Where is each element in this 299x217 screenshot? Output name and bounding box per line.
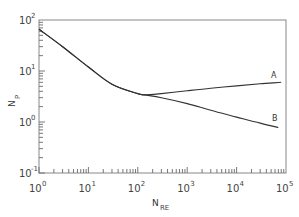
svg-text:5: 5 bbox=[289, 180, 293, 188]
x-axis-tick-labels: 100101102103104105 bbox=[29, 180, 293, 194]
x-axis-title: N RE bbox=[152, 198, 169, 212]
svg-text:P: P bbox=[14, 95, 22, 99]
curves bbox=[39, 29, 281, 127]
x-tick-label: 105 bbox=[276, 180, 293, 194]
svg-text:1: 1 bbox=[91, 180, 95, 188]
curve-label-b: B bbox=[272, 114, 278, 123]
svg-text:N: N bbox=[7, 100, 17, 107]
svg-text:10: 10 bbox=[29, 183, 42, 194]
y-tick-label: 101 bbox=[19, 63, 35, 77]
curve-a bbox=[39, 29, 281, 95]
x-tick-label: 103 bbox=[177, 180, 194, 194]
x-tick-label: 101 bbox=[78, 180, 95, 194]
svg-text:2: 2 bbox=[31, 12, 35, 20]
svg-text:0: 0 bbox=[42, 180, 46, 188]
curve-label-a: A bbox=[271, 71, 277, 80]
y-axis-ticks bbox=[39, 22, 45, 173]
chart: 10-1100101102 100101102103104105 A B N R… bbox=[0, 0, 299, 217]
y-tick-label: 100 bbox=[19, 114, 35, 128]
svg-text:10: 10 bbox=[19, 117, 32, 128]
x-tick-label: 104 bbox=[227, 180, 245, 194]
curve-b bbox=[39, 29, 278, 127]
svg-text:10: 10 bbox=[128, 183, 141, 194]
plot-frame bbox=[39, 20, 286, 173]
svg-text:-1: -1 bbox=[31, 165, 38, 173]
svg-text:10: 10 bbox=[227, 183, 240, 194]
x-tick-label: 100 bbox=[29, 180, 46, 194]
svg-text:N: N bbox=[152, 198, 159, 208]
svg-text:2: 2 bbox=[141, 180, 145, 188]
svg-text:10: 10 bbox=[78, 183, 91, 194]
y-tick-label: 10-1 bbox=[19, 165, 38, 179]
svg-text:10: 10 bbox=[177, 183, 190, 194]
svg-text:1: 1 bbox=[31, 63, 35, 71]
svg-text:RE: RE bbox=[160, 204, 169, 212]
x-axis-ticks bbox=[39, 167, 284, 173]
svg-text:0: 0 bbox=[31, 114, 35, 122]
svg-text:4: 4 bbox=[240, 180, 245, 188]
svg-text:10: 10 bbox=[19, 66, 32, 77]
y-tick-label: 102 bbox=[19, 12, 35, 26]
x-tick-label: 102 bbox=[128, 180, 145, 194]
svg-text:3: 3 bbox=[190, 180, 194, 188]
svg-text:10: 10 bbox=[19, 15, 32, 26]
svg-text:10: 10 bbox=[276, 183, 289, 194]
svg-text:10: 10 bbox=[19, 168, 32, 179]
y-axis-title: N P bbox=[7, 95, 22, 107]
